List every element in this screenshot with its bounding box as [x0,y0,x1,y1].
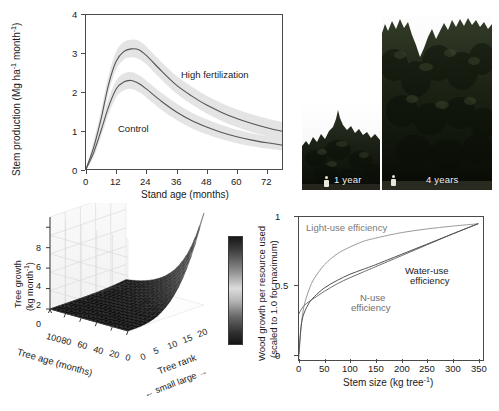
person-silhouette-icon [324,176,329,187]
stem-xtick-36 [177,170,178,174]
tree-photos-panel: 1 year [298,0,499,200]
stem-yticklabel-0: 0 [72,165,77,176]
eff-yaxis-title-line2: (scaled to 1.0 for maximum) [269,240,279,358]
stem-yaxis-title-post: ) [11,23,22,26]
eff-xaxis-title-post: ) [430,377,433,388]
stem-production-panel: 0 1 2 3 4 0 12 24 36 48 60 72 Stand age … [0,0,300,205]
surface-zaxis-title-line2: (kg month-1) [26,262,35,311]
photo-caption-1-year: 1 year [334,174,362,185]
stem-xticklabel-72: 72 [261,176,272,187]
tree-growth-surface-panel: 8 6 4 2 0 Tree growth (kg month-1) 100 8… [0,203,248,411]
surface-colorbar [228,236,243,345]
stem-yticklabel-3: 3 [72,48,77,59]
stem-xticklabel-12: 12 [110,176,121,187]
label-n-use-efficiency-line2: efficiency [351,302,390,313]
stem-yaxis-title-mid: month [11,32,22,63]
photo-caption-4-years: 4 years [426,174,459,185]
efficiency-curves [299,217,483,360]
resource-efficiency-panel: 1 0.5 0 0 50 100 150 200 250 300 350 Ste… [247,203,499,411]
label-light-use-efficiency: Light-use efficiency [306,222,387,233]
stem-yaxis-title-pre: Stem production (Mg ha [11,69,22,176]
annotation-high-fertilization: High fertilization [181,69,249,80]
stem-xtick-72 [267,170,268,174]
eff-xaxis-title-pre: Stem size (kg tree [343,377,424,388]
stem-yaxis-title: Stem production (Mg ha-1 month-1) [12,23,22,176]
stem-xticklabel-48: 48 [201,176,212,187]
stem-xticklabel-36: 36 [171,176,182,187]
eff-xticklabel-350: 350 [471,363,487,374]
surface-zunit-pre: (kg month [25,271,35,311]
eff-ytick-0p5 [294,285,298,286]
stem-production-curves [86,15,282,169]
eff-xticklabel-50: 50 [319,363,330,374]
stem-ytick-3 [81,53,85,54]
stem-xticklabel-24: 24 [140,176,151,187]
surface-zaxis-title-line1: Tree growth [14,260,23,308]
stem-xtick-24 [146,170,147,174]
eff-yticklabel-1p0: 1 [275,211,280,222]
stem-yticklabel-4: 4 [72,9,77,20]
canopy-4-years-image [382,15,492,190]
stem-ytick-2 [81,92,85,93]
surface-zticklabel-8: 8 [36,243,41,253]
stem-xtick-0 [86,170,87,174]
eff-xticklabel-250: 250 [419,363,435,374]
annotation-control: Control [118,123,149,134]
eff-xticklabel-100: 100 [342,363,358,374]
stem-xtick-60 [237,170,238,174]
stem-xtick-12 [116,170,117,174]
label-water-use-efficiency-line2: efficiency [410,275,449,286]
stem-xtick-48 [207,170,208,174]
eff-yaxis-title-line1: Wood growth per resource used [257,226,267,361]
stem-yticklabel-2: 2 [72,87,77,98]
eff-xticklabel-300: 300 [445,363,461,374]
efficiency-plot-area [298,216,484,361]
stem-yticklabel-1: 1 [72,126,77,137]
stem-ytick-0 [81,170,85,171]
surface-zticklabel-2: 2 [36,300,41,310]
stem-yaxis-sup-2: -1 [9,26,18,32]
stem-xticklabel-0: 0 [83,176,88,187]
eff-xticklabel-150: 150 [368,363,384,374]
stem-xaxis-title: Stand age (months) [141,189,229,200]
surface-zticklabel-6: 6 [36,262,41,272]
stem-ytick-1 [81,131,85,132]
eff-ytick-0p0 [294,355,298,356]
surface-zticklabel-4: 4 [36,281,41,291]
photo-4-years: 4 years [382,15,492,190]
stem-production-plot-area [85,14,283,170]
surface-zunit-post: ) [25,262,35,265]
eff-xticklabel-200: 200 [394,363,410,374]
stem-xticklabel-60: 60 [231,176,242,187]
photo-1-year: 1 year [302,100,380,190]
eff-xaxis-title: Stem size (kg tree-1) [343,377,433,388]
stem-yaxis-sup-1: -1 [9,63,18,69]
person-silhouette-icon [391,175,396,186]
eff-xticklabel-0: 0 [296,363,301,374]
stem-ytick-4 [81,14,85,15]
surface-zticklabel-0: 0 [36,319,41,329]
eff-ytick-1p0 [294,216,298,217]
surface-zunit-sup: -1 [23,265,30,271]
